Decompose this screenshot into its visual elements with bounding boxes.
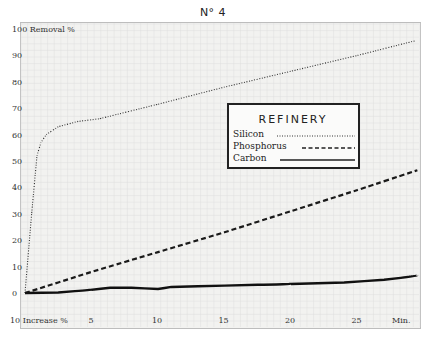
y-tick-label: 10 — [12, 263, 22, 272]
y-tick-label: 70 — [12, 104, 22, 113]
y-tick-label: 90 — [12, 51, 22, 60]
x-tick-label: 10 — [152, 316, 162, 325]
x-tick-label: 25 — [352, 316, 362, 325]
y-tick-label: 20 — [12, 236, 22, 245]
y-tick-label: 30 — [12, 210, 22, 219]
x-tick-label: 5 — [89, 316, 94, 325]
x-tick-label: 20 — [285, 316, 295, 325]
series-line-phosphorus — [25, 170, 417, 293]
x-axis-labels: 10 Increase %510152025Min. — [10, 316, 410, 325]
legend-refinery: REFINERY Silicon Phosphorus Carbon — [228, 104, 359, 168]
y-tick-label: 100 Removal % — [12, 25, 75, 34]
x-tick-label: 15 — [219, 316, 229, 325]
legend-label-carbon: Carbon — [233, 153, 267, 163]
y-tick-label: 50 — [12, 157, 22, 166]
y-tick-label: 0 — [12, 289, 17, 298]
y-tick-label: 60 — [12, 131, 22, 140]
legend-label-phosphorus: Phosphorus — [233, 141, 287, 151]
legend-title: REFINERY — [258, 113, 327, 126]
series-line-carbon — [25, 276, 417, 293]
line-chart: 0102030405060708090100 Removal % 10 Incr… — [0, 0, 426, 337]
y-tick-label: 80 — [12, 78, 22, 87]
y-axis-labels: 0102030405060708090100 Removal % — [12, 25, 75, 298]
x-tick-label: Min. — [392, 316, 410, 325]
y-tick-label: 40 — [12, 183, 22, 192]
x-tick-label: 10 Increase % — [10, 316, 68, 325]
legend-label-silicon: Silicon — [233, 129, 264, 139]
